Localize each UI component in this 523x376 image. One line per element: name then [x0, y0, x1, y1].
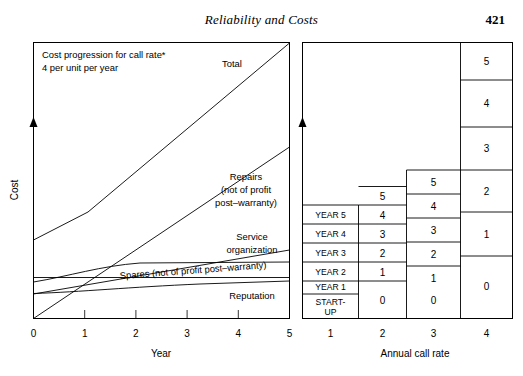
- row-label-year-1: YEAR 1: [315, 282, 346, 292]
- block-value-rate3-0: 0: [431, 295, 437, 306]
- y-axis-label: Cost: [9, 179, 20, 200]
- label-total: Total: [222, 58, 242, 69]
- column-rate-2: 5 4 3 2 1 0: [359, 187, 407, 306]
- x-tick-0: 0: [31, 328, 37, 339]
- x-tick-4: 4: [236, 328, 242, 339]
- page-canvas: Reliability and Costs 421 Cost: [0, 0, 523, 376]
- left-chart-figure: Cost Cost progression for call rate* 4 p…: [0, 0, 300, 376]
- left-chart-annotation-line2: 4 per unit per year: [42, 62, 118, 73]
- label-reputation: Reputation: [229, 290, 274, 301]
- right-x-tick-1: 1: [328, 328, 334, 339]
- left-chart-annotation-line1: Cost progression for call rate*: [42, 49, 166, 60]
- right-x-tick-3: 3: [431, 328, 437, 339]
- block-value-rate4-3: 3: [484, 143, 490, 154]
- block-value-rate3-2: 2: [431, 249, 437, 260]
- label-service-line2: organization: [226, 244, 277, 255]
- right-chart-figure: YEAR 5 YEAR 4 YEAR 3 YEAR 2 YEAR 1 START…: [295, 0, 523, 376]
- block-value-rate4-4: 4: [484, 98, 490, 109]
- block-value-rate3-3: 3: [431, 225, 437, 236]
- row-label-startup-line2: UP: [325, 307, 337, 317]
- row-label-year-3: YEAR 3: [315, 248, 346, 258]
- row-label-year-5: YEAR 5: [315, 210, 346, 220]
- x-tick-1: 1: [82, 328, 88, 339]
- block-value-rate2-3: 3: [380, 229, 386, 240]
- column-rate-3: 5 4 3 2 1 0: [407, 170, 461, 306]
- x-axis-label: Year: [151, 348, 172, 359]
- right-y-axis-arrow-icon: [299, 117, 307, 319]
- label-service-line1: Service: [236, 231, 267, 242]
- label-repairs-line2: (not of profit: [221, 184, 271, 195]
- block-value-rate2-4: 4: [380, 210, 386, 221]
- left-chart-x-ticks: [85, 310, 239, 319]
- row-label-year-2: YEAR 2: [315, 267, 346, 277]
- right-x-axis-label: Annual call rate: [381, 348, 450, 359]
- block-value-rate2-2: 2: [380, 248, 386, 259]
- right-chart-svg: YEAR 5 YEAR 4 YEAR 3 YEAR 2 YEAR 1 START…: [295, 0, 523, 376]
- block-value-rate4-1: 1: [484, 229, 490, 240]
- row-label-startup-line1: START-: [316, 297, 346, 307]
- label-repairs-line3: post–warranty): [215, 197, 277, 208]
- block-value-rate4-2: 2: [484, 186, 490, 197]
- block-value-rate3-1: 1: [431, 273, 437, 284]
- row-label-year-4: YEAR 4: [315, 229, 346, 239]
- block-value-rate3-5: 5: [431, 177, 437, 188]
- x-tick-5: 5: [287, 328, 293, 339]
- block-value-rate2-1: 1: [380, 267, 386, 278]
- right-chart-frame: [303, 43, 513, 319]
- block-value-rate2-5: 5: [380, 191, 386, 202]
- left-chart-svg: Cost Cost progression for call rate* 4 p…: [0, 0, 300, 376]
- x-tick-2: 2: [133, 328, 139, 339]
- block-value-rate2-0: 0: [380, 295, 386, 306]
- block-value-rate4-5: 5: [484, 56, 490, 67]
- block-value-rate4-0: 0: [484, 281, 490, 292]
- column-rate-4: 5 4 3 2 1 0: [461, 56, 513, 292]
- column-rate-1: YEAR 5 YEAR 4 YEAR 3 YEAR 2 YEAR 1 START…: [303, 205, 359, 317]
- label-repairs-line1: Repairs: [230, 171, 263, 182]
- right-x-tick-4: 4: [484, 328, 490, 339]
- y-axis-arrow-icon: [30, 117, 38, 319]
- right-x-tick-2: 2: [380, 328, 386, 339]
- block-value-rate3-4: 4: [431, 201, 437, 212]
- x-tick-3: 3: [184, 328, 190, 339]
